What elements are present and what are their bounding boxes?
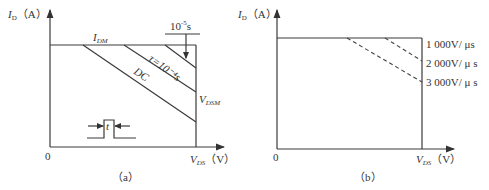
x-axis-label-b: VDS（V） — [416, 153, 461, 167]
caption-b: （b） — [354, 171, 382, 183]
dvdt-3000-line — [347, 38, 422, 82]
figure: 10-5s IDM τ=10⁻⁴s DC VDSM ID（A） 0 VDS（V） — [0, 0, 489, 190]
idm-label: IDM — [92, 31, 109, 45]
origin-b: 0 — [273, 151, 279, 163]
vdsm-label: VDSM — [199, 93, 221, 107]
tau-label: τ=10⁻⁴s — [147, 52, 184, 83]
panel-a: 10-5s IDM τ=10⁻⁴s DC VDSM ID（A） 0 VDS（V） — [7, 8, 235, 183]
pulse-width-label: t — [106, 120, 110, 132]
top-time-label: 10-5s — [170, 19, 191, 32]
x-axis-label-a: VDS（V） — [190, 153, 235, 167]
dc-limit-line — [83, 45, 196, 122]
y-axis-label-a: ID（A） — [7, 8, 47, 22]
caption-a: （a） — [112, 171, 139, 183]
dvdt-2000-line — [385, 38, 422, 61]
panel-b: 1 000V/ μs 2 000V/ μ s 3 000V/ μ s ID（A）… — [237, 8, 477, 183]
curve-label-3000: 3 000V/ μ s — [426, 76, 477, 88]
curve-label-1000: 1 000V/ μs — [426, 38, 475, 50]
pulse-width-icon: t — [87, 120, 136, 138]
origin-a: 0 — [45, 150, 51, 162]
curve-label-2000: 2 000V/ μ s — [426, 57, 477, 69]
y-axis-label-b: ID（A） — [237, 8, 277, 22]
dc-label: DC — [131, 64, 152, 83]
